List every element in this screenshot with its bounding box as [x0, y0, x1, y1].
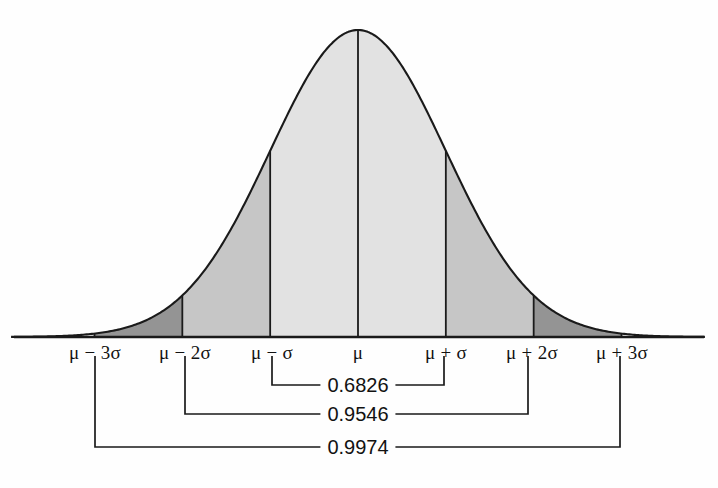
axis-tick-label-4: μ + σ — [425, 342, 467, 364]
axis-tick-label-5: μ + 2σ — [506, 342, 558, 364]
axis-tick-label-6: μ + 3σ — [596, 342, 648, 364]
probability-value-0.9546: 0.9546 — [320, 403, 395, 426]
axis-tick-label-3: μ — [353, 342, 364, 364]
axis-tick-label-1: μ − 2σ — [159, 342, 211, 364]
band-minus1-to-mean — [270, 30, 358, 337]
normal-distribution-figure: μ − 3σμ − 2σμ − σμμ + σμ + 2σμ + 3σ 0.68… — [0, 0, 718, 488]
probability-value-0.9974: 0.9974 — [320, 436, 395, 459]
three-sigma-bracket — [95, 356, 620, 447]
sigma-divider-lines — [95, 30, 622, 337]
axis-tick-label-2: μ − σ — [251, 342, 293, 364]
probability-value-0.6826: 0.6826 — [320, 374, 395, 397]
axis-tick-label-0: μ − 3σ — [69, 342, 121, 364]
band-mean-to-plus1 — [358, 30, 446, 337]
probability-brackets — [95, 356, 620, 447]
